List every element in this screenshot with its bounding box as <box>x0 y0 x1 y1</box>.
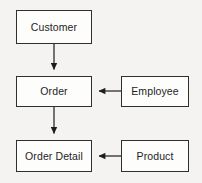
node-employee[interactable]: Employee <box>121 76 189 107</box>
node-order[interactable]: Order <box>16 76 92 107</box>
node-order-detail-label: Order Detail <box>25 151 83 162</box>
node-order-detail[interactable]: Order Detail <box>16 140 92 172</box>
node-order-label: Order <box>40 86 67 97</box>
node-customer[interactable]: Customer <box>16 10 92 44</box>
node-product[interactable]: Product <box>121 140 189 172</box>
node-customer-label: Customer <box>31 22 77 33</box>
node-employee-label: Employee <box>131 86 179 97</box>
node-product-label: Product <box>137 151 174 162</box>
diagram-canvas: Customer Order Employee Order Detail Pro… <box>0 0 202 183</box>
